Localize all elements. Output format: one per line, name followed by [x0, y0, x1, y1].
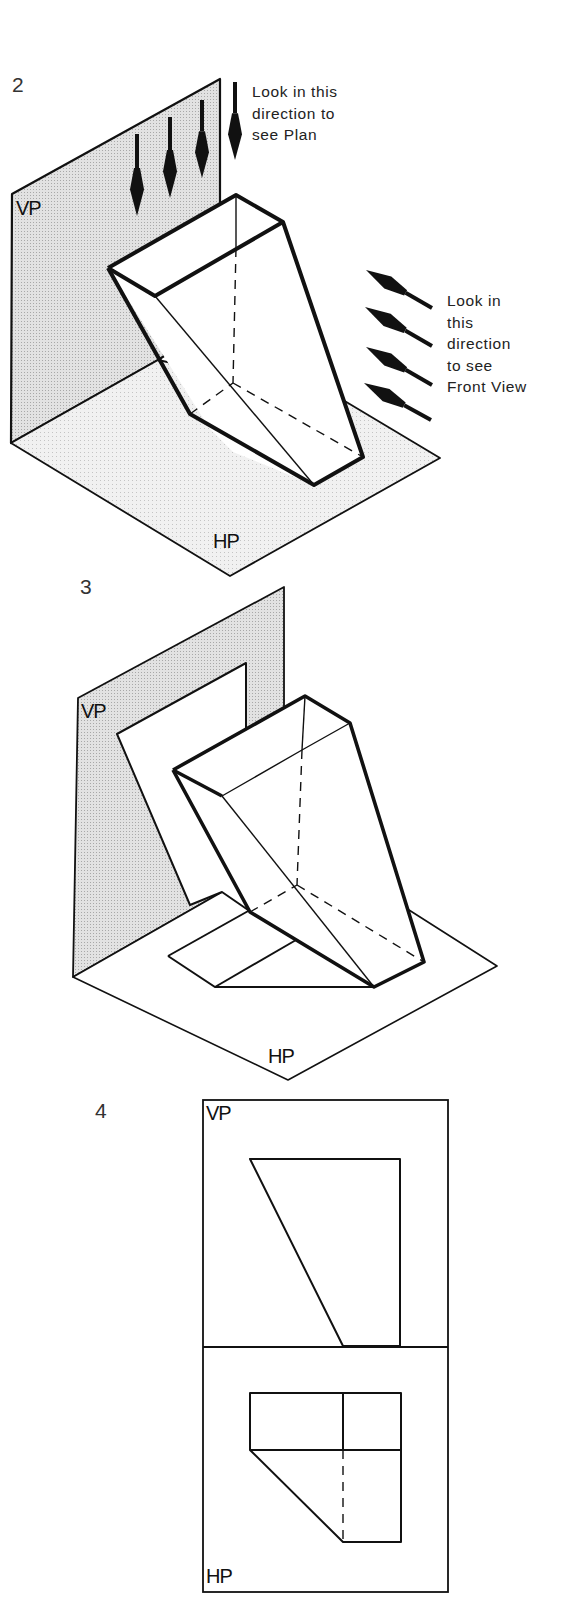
hp-label: HP [213, 530, 239, 553]
view-direction-arrow-icon [228, 82, 242, 160]
caption-line: direction to [252, 103, 338, 125]
vp-label: VP [81, 700, 106, 723]
caption-line: Look in this [252, 81, 338, 103]
view-direction-arrow-icon [366, 347, 432, 385]
view-direction-arrow-icon [366, 270, 432, 308]
figure-number-2: 2 [12, 73, 24, 97]
figure-number-4: 4 [95, 1099, 107, 1123]
projection-frame [203, 1100, 448, 1592]
vp-label: VP [206, 1102, 231, 1125]
caption-line: Front View [447, 376, 527, 398]
view-direction-arrow-icon [364, 383, 431, 420]
figure-3 [73, 587, 497, 1080]
plan-view [250, 1393, 401, 1542]
caption-line: this [447, 312, 527, 334]
caption-line: to see [447, 355, 527, 377]
figure-4 [203, 1100, 448, 1592]
view-direction-arrow-icon [365, 307, 432, 346]
figure-number-3: 3 [80, 575, 92, 599]
caption-line: see Plan [252, 124, 338, 146]
caption-line: Look in [447, 290, 527, 312]
front-view-direction-caption: Look in this direction to see Front View [447, 290, 527, 398]
vp-label: VP [16, 197, 41, 220]
front-elevation [250, 1159, 400, 1346]
plan-direction-caption: Look in this direction to see Plan [252, 81, 338, 146]
hp-label: HP [268, 1045, 294, 1068]
caption-line: direction [447, 333, 527, 355]
hp-label: HP [206, 1565, 232, 1588]
orthographic-projection-diagram [0, 0, 567, 1597]
front-view-direction-arrows [364, 270, 432, 420]
figure-2 [11, 79, 440, 576]
